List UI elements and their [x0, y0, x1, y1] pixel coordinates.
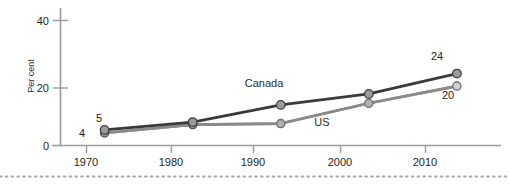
- data-point-canada-1981: [188, 118, 197, 127]
- chart-figure: 40 20 0 1970 1980 1990 2000 2010 Per cen…: [0, 0, 509, 188]
- line-chart: 40 20 0 1970 1980 1990 2000 2010 Per cen…: [0, 0, 509, 188]
- series-label-us: US: [314, 116, 329, 128]
- y-tick-label-20: 20: [37, 82, 49, 94]
- value-label-canada-start: 5: [96, 112, 102, 124]
- y-axis-title: Per cent: [26, 59, 36, 93]
- data-point-canada-1991: [277, 101, 286, 110]
- value-label-us-start: 4: [79, 127, 85, 139]
- x-tick-label-2010: 2010: [413, 156, 437, 168]
- data-point-canada-2001: [365, 90, 374, 99]
- value-label-canada-end: 24: [431, 50, 443, 62]
- x-tick-label-2000: 2000: [328, 156, 352, 168]
- data-point-canada-1971: [100, 126, 109, 135]
- data-point-canada-2011: [453, 69, 462, 78]
- x-tick-label-1990: 1990: [241, 156, 265, 168]
- x-tick-label-1980: 1980: [159, 156, 183, 168]
- data-point-us-2001: [365, 99, 373, 107]
- data-point-us-1991: [277, 120, 285, 128]
- y-tick-label-40: 40: [37, 15, 49, 27]
- x-tick-label-1970: 1970: [74, 156, 98, 168]
- y-tick-label-0: 0: [43, 140, 49, 152]
- series-label-canada: Canada: [245, 77, 284, 89]
- value-label-us-end: 20: [442, 89, 454, 101]
